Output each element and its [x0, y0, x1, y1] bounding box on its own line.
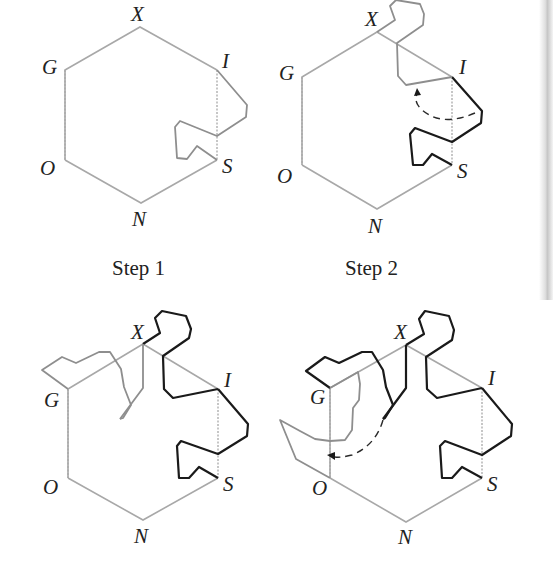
panel-step2: X I S N O G [280, 311, 512, 549]
vertex-label-G: G [279, 61, 294, 85]
edge-curve-IS [410, 77, 482, 165]
vertex-label-X: X [364, 7, 379, 31]
panel-initial: X I S N O G [40, 2, 247, 231]
caption-step1: Step 1 [112, 256, 165, 280]
vertex-label-O: O [312, 476, 327, 500]
arrowhead-icon [327, 452, 335, 460]
edge-curve-IS [177, 389, 248, 478]
vertex-label-X: X [130, 2, 145, 26]
vertex-label-G: G [44, 388, 59, 412]
panel-step1: X I S N O G [42, 311, 248, 548]
vertex-label-G: G [42, 55, 57, 79]
rotation-arrow [335, 420, 383, 457]
vertex-label-O: O [277, 164, 292, 188]
arrowhead-icon [414, 88, 421, 96]
rotation-arrow [416, 92, 475, 119]
edge-curve-XI [143, 311, 218, 398]
vertex-label-S: S [222, 154, 233, 178]
vertex-label-N: N [397, 525, 413, 549]
caption-step2: Step 2 [345, 256, 398, 280]
vertex-label-O: O [43, 475, 58, 499]
vertex-label-N: N [131, 207, 147, 231]
edge-curve-IS [175, 70, 247, 160]
vertex-label-I: I [487, 366, 496, 390]
vertex-label-X: X [393, 320, 408, 344]
vertex-label-S: S [487, 472, 498, 496]
edge-curve-IS [440, 388, 512, 478]
vertex-label-N: N [133, 524, 149, 548]
edge-curve-XI [377, 0, 452, 85]
edge-curve-XI [406, 311, 482, 398]
tiling-figure: X I S N O G X I S N O G Step 1 Step 2 X [0, 0, 553, 565]
panel-rotate-IS-to-XI: X I S N O G [277, 0, 482, 238]
vertex-label-N: N [367, 214, 383, 238]
vertex-label-S: S [457, 159, 468, 183]
vertex-label-O: O [40, 156, 55, 180]
vertex-label-S: S [223, 472, 234, 496]
vertex-label-I: I [221, 49, 230, 73]
vertex-label-X: X [130, 320, 145, 344]
page-edge-shadow [539, 0, 553, 300]
vertex-label-I: I [458, 55, 467, 79]
vertex-label-I: I [223, 368, 232, 392]
vertex-label-G: G [310, 385, 325, 409]
